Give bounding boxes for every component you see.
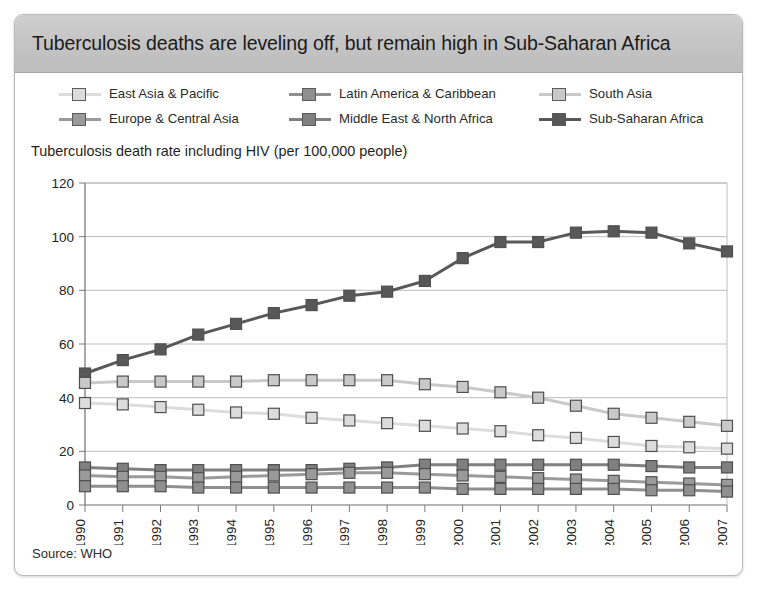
- data-point-marker: [495, 426, 506, 437]
- data-point-marker: [495, 387, 506, 398]
- data-point-marker: [193, 329, 204, 340]
- legend-item-middle-east-and-north-africa[interactable]: Middle East & North Africa: [289, 111, 539, 127]
- data-point-marker: [80, 481, 91, 492]
- series-latin-america-and-caribbean: [80, 481, 733, 497]
- series-sub-saharan-africa: [80, 226, 733, 379]
- data-point-marker: [608, 483, 619, 494]
- data-point-marker: [495, 237, 506, 248]
- data-point-marker: [457, 483, 468, 494]
- legend-item-south-asia[interactable]: South Asia: [539, 86, 743, 102]
- data-point-marker: [570, 459, 581, 470]
- data-point-marker: [608, 436, 619, 447]
- data-point-marker: [722, 462, 733, 473]
- legend-label: East Asia & Pacific: [109, 86, 219, 101]
- legend-swatch-icon: [539, 86, 581, 102]
- x-tick-label: 1996: [300, 519, 315, 545]
- plot-area: 0204060801001201990199119921993199419951…: [15, 165, 743, 545]
- data-point-marker: [80, 398, 91, 409]
- data-point-marker: [608, 459, 619, 470]
- data-point-marker: [457, 459, 468, 470]
- x-tick-label: 2004: [602, 519, 617, 545]
- data-point-marker: [495, 483, 506, 494]
- x-tick-label: 2000: [451, 519, 466, 545]
- data-point-marker: [533, 392, 544, 403]
- data-point-marker: [646, 440, 657, 451]
- data-point-marker: [722, 486, 733, 497]
- legend-swatch-icon: [59, 111, 101, 127]
- x-tick-label: 1994: [224, 519, 239, 545]
- data-point-marker: [419, 275, 430, 286]
- data-point-marker: [419, 379, 430, 390]
- legend-marker: [302, 113, 316, 126]
- data-point-marker: [457, 381, 468, 392]
- legend-swatch-icon: [289, 86, 331, 102]
- legend-swatch-icon: [539, 111, 581, 127]
- data-point-marker: [495, 459, 506, 470]
- data-point-marker: [306, 412, 317, 423]
- data-point-marker: [268, 482, 279, 493]
- data-point-marker: [306, 300, 317, 311]
- page-title: Tuberculosis deaths are leveling off, bu…: [15, 32, 671, 55]
- data-point-marker: [268, 375, 279, 386]
- legend-swatch-icon: [59, 86, 101, 102]
- data-point-marker: [117, 399, 128, 410]
- data-point-marker: [684, 238, 695, 249]
- line-chart-svg: 0204060801001201990199119921993199419951…: [15, 165, 743, 545]
- y-tick-label: 60: [59, 337, 74, 352]
- legend-label: Latin America & Caribbean: [339, 86, 496, 101]
- series-line: [85, 473, 727, 485]
- data-point-marker: [419, 469, 430, 480]
- data-point-marker: [155, 376, 166, 387]
- data-point-marker: [382, 482, 393, 493]
- data-point-marker: [231, 407, 242, 418]
- legend-item-latin-america-and-caribbean[interactable]: Latin America & Caribbean: [289, 86, 539, 102]
- data-point-marker: [684, 442, 695, 453]
- data-point-marker: [457, 423, 468, 434]
- data-point-marker: [231, 471, 242, 482]
- legend-marker: [72, 88, 86, 101]
- y-tick-label: 100: [51, 230, 74, 245]
- x-tick-label: 2001: [488, 519, 503, 545]
- figure-root: Tuberculosis deaths are leveling off, bu…: [0, 0, 757, 590]
- data-point-marker: [495, 471, 506, 482]
- legend-item-east-asia-and-pacific[interactable]: East Asia & Pacific: [59, 86, 289, 102]
- data-point-marker: [684, 485, 695, 496]
- data-point-marker: [382, 286, 393, 297]
- data-point-marker: [382, 418, 393, 429]
- data-point-marker: [306, 469, 317, 480]
- y-tick-label: 80: [59, 283, 74, 298]
- legend-item-europe-and-central-asia[interactable]: Europe & Central Asia: [59, 111, 289, 127]
- x-tick-label: 2007: [715, 519, 730, 545]
- series-east-asia-and-pacific: [80, 398, 733, 455]
- x-tick-label: 1990: [73, 519, 88, 545]
- data-point-marker: [419, 482, 430, 493]
- data-point-marker: [684, 462, 695, 473]
- data-point-marker: [382, 467, 393, 478]
- data-point-marker: [344, 375, 355, 386]
- data-point-marker: [457, 470, 468, 481]
- data-point-marker: [382, 375, 393, 386]
- legend-marker: [552, 113, 566, 126]
- series-line: [85, 465, 727, 470]
- x-tick-label: 1997: [337, 519, 352, 545]
- y-axis-label: Tuberculosis death rate including HIV (p…: [31, 143, 407, 159]
- data-point-marker: [646, 485, 657, 496]
- x-tick-label: 2003: [564, 519, 579, 545]
- x-tick-label: 1992: [149, 519, 164, 545]
- data-point-marker: [193, 482, 204, 493]
- data-point-marker: [155, 344, 166, 355]
- legend-marker: [72, 113, 86, 126]
- data-point-marker: [570, 400, 581, 411]
- data-point-marker: [268, 470, 279, 481]
- data-point-marker: [646, 461, 657, 472]
- data-point-marker: [533, 430, 544, 441]
- legend-label: Sub-Saharan Africa: [589, 111, 703, 126]
- data-point-marker: [608, 226, 619, 237]
- data-point-marker: [646, 412, 657, 423]
- data-point-marker: [155, 481, 166, 492]
- data-point-marker: [533, 237, 544, 248]
- data-point-marker: [533, 459, 544, 470]
- legend-item-sub-saharan-africa[interactable]: Sub-Saharan Africa: [539, 111, 743, 127]
- data-point-marker: [193, 376, 204, 387]
- data-point-marker: [570, 227, 581, 238]
